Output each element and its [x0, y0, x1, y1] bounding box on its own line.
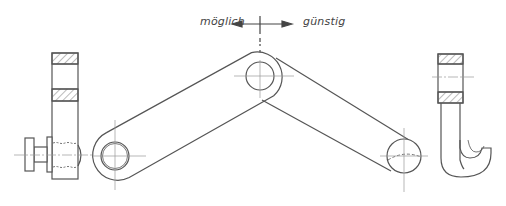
- drawing-canvas: [0, 0, 506, 206]
- side-view-knob-part: [25, 53, 81, 179]
- label-possible: möglich: [200, 15, 245, 28]
- side-view-hook-part: [438, 54, 491, 177]
- label-favorable: günstig: [303, 15, 345, 28]
